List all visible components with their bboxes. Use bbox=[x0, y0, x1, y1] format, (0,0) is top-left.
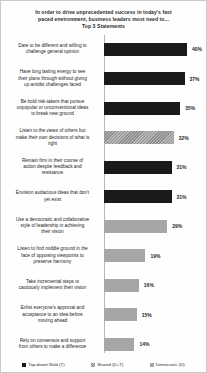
bar-value-label: 16% bbox=[144, 282, 154, 288]
bar-row: Enlist everyone's approval andacceptance… bbox=[5, 300, 202, 329]
bar-track: 40% bbox=[104, 35, 202, 64]
bar-row: Be bold risk-takers that pursueunpopular… bbox=[5, 94, 202, 123]
legend-swatch-icon bbox=[91, 363, 95, 367]
legend-label: Top-down/ Bold (T) bbox=[28, 362, 64, 367]
bar-value-label: 14% bbox=[139, 341, 149, 347]
bar[interactable] bbox=[104, 308, 137, 321]
legend-item[interactable]: Shared (D+T) bbox=[91, 362, 123, 367]
bar-track: 15% bbox=[104, 300, 202, 329]
bar-category-label: Listen to the views of others butmake th… bbox=[5, 128, 104, 147]
bar-value-label: 15% bbox=[142, 312, 152, 318]
bar-category-label: Rely on consensus and supportfrom others… bbox=[5, 338, 104, 351]
bar-category-label: Be bold risk-takers that pursueunpopular… bbox=[5, 99, 104, 118]
bar-category-label-line: yet exist bbox=[5, 197, 100, 203]
bar-category-label: Dare to be different and willing tochall… bbox=[5, 43, 104, 56]
bar[interactable] bbox=[104, 190, 172, 203]
legend-item[interactable]: Democratic (D) bbox=[150, 362, 185, 367]
bar-category-label: Remain firm in their course ofaction des… bbox=[5, 158, 104, 177]
bar-value-label: 35% bbox=[185, 105, 195, 111]
legend-label: Shared (D+T) bbox=[97, 362, 123, 367]
bar-category-label: Take incremental steps tocautiously impl… bbox=[5, 279, 104, 292]
plot-area: Dare to be different and willing tochall… bbox=[5, 35, 202, 359]
chart-title-line-2: paced environment, business leaders most… bbox=[13, 16, 194, 23]
bar-row: Take incremental steps tocautiously impl… bbox=[5, 270, 202, 299]
bar-row: Listen to the views of others butmake th… bbox=[5, 123, 202, 152]
bar-value-label: 29% bbox=[172, 223, 182, 229]
bar-category-label: Listen to find middle ground in theface … bbox=[5, 246, 104, 265]
bar-category-label-line: to break new ground bbox=[5, 111, 100, 117]
bar-value-label: 37% bbox=[190, 76, 200, 82]
bar[interactable] bbox=[104, 161, 172, 174]
bar-track: 35% bbox=[104, 94, 202, 123]
legend-label: Democratic (D) bbox=[156, 362, 185, 367]
bar-category-label-line: preserve harmony bbox=[5, 259, 100, 265]
bar[interactable] bbox=[104, 43, 187, 56]
bar[interactable] bbox=[104, 279, 139, 292]
bar[interactable] bbox=[104, 131, 174, 144]
bar-row: Dare to be different and willing tochall… bbox=[5, 35, 202, 64]
chart-container: In order to drive unprecedented success … bbox=[0, 0, 207, 373]
bar-category-label-line: resistance bbox=[5, 170, 100, 176]
bar-category-label: Have long lasting energy to seetheir pla… bbox=[5, 69, 104, 88]
bar[interactable] bbox=[104, 72, 185, 85]
bar[interactable] bbox=[104, 338, 134, 351]
bar-track: 37% bbox=[104, 64, 202, 93]
bar-value-label: 31% bbox=[177, 164, 187, 170]
bar[interactable] bbox=[104, 220, 167, 233]
bar-track: 14% bbox=[104, 329, 202, 358]
bar-row: Have long lasting energy to seetheir pla… bbox=[5, 64, 202, 93]
chart-title-line-3: Top 3 Statements bbox=[13, 23, 194, 30]
legend-swatch-icon bbox=[22, 363, 26, 367]
bar-category-label-line: cautiously implement their vision bbox=[5, 285, 100, 291]
legend-item[interactable]: Top-down/ Bold (T) bbox=[22, 362, 64, 367]
legend-swatch-icon bbox=[150, 363, 154, 367]
bar[interactable] bbox=[104, 102, 180, 115]
bar-value-label: 32% bbox=[179, 135, 189, 141]
bar-track: 19% bbox=[104, 241, 202, 270]
bar-track: 29% bbox=[104, 212, 202, 241]
bar-category-label: Enlist everyone's approval andacceptance… bbox=[5, 305, 104, 324]
bar-category-label: Envision audacious ideas that don'tyet e… bbox=[5, 190, 104, 203]
bar-row: Envision audacious ideas that don'tyet e… bbox=[5, 182, 202, 211]
bar-track: 16% bbox=[104, 270, 202, 299]
bar-row: Remain firm in their course ofaction des… bbox=[5, 153, 202, 182]
bar-category-label-line: Listen to find middle ground in the bbox=[5, 246, 100, 252]
bar-rows: Dare to be different and willing tochall… bbox=[5, 35, 202, 359]
bar-category-label-line: Envision audacious ideas that don't bbox=[5, 190, 100, 196]
bar-category-label-line: moving ahead bbox=[5, 318, 100, 324]
chart-title: In order to drive unprecedented success … bbox=[1, 1, 206, 33]
bar-row: Use a democratic and collaborativestyle … bbox=[5, 212, 202, 241]
bar-value-label: 19% bbox=[150, 253, 160, 259]
bar-row: Rely on consensus and supportfrom others… bbox=[5, 329, 202, 358]
bar-category-label-line: challenge general opinion bbox=[5, 49, 100, 55]
chart-title-line-1: In order to drive unprecedented success … bbox=[13, 9, 194, 16]
bar-track: 31% bbox=[104, 182, 202, 211]
bar-category-label-line: right bbox=[5, 141, 100, 147]
bar-row: Listen to find middle ground in theface … bbox=[5, 241, 202, 270]
bar-category-label: Use a democratic and collaborativestyle … bbox=[5, 217, 104, 236]
chart-legend: Top-down/ Bold (T)Shared (D+T)Democratic… bbox=[1, 359, 206, 372]
bar-category-label-line: their vision bbox=[5, 229, 100, 235]
bar-track: 31% bbox=[104, 153, 202, 182]
bar-track: 32% bbox=[104, 123, 202, 152]
bar-value-label: 31% bbox=[177, 194, 187, 200]
bar-category-label-line: from others to make a difference bbox=[5, 344, 100, 350]
bar[interactable] bbox=[104, 249, 145, 262]
bar-category-label-line: up amidst challenges faced bbox=[5, 82, 100, 88]
bar-value-label: 40% bbox=[192, 46, 202, 52]
